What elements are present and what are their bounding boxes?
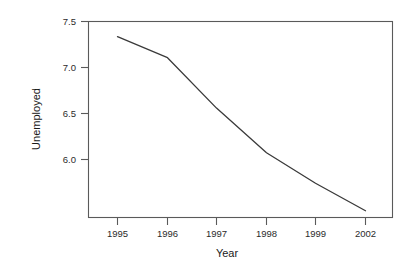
line-chart-svg: 7.5 7.0 6.5 6.0 1995 1996 1997 1998 1999…: [0, 0, 415, 269]
x-tick-label: 1995: [107, 228, 128, 239]
x-tick-label: 1997: [206, 228, 227, 239]
x-tick-label: 2002: [355, 228, 376, 239]
y-tick-label: 7.0: [63, 62, 76, 73]
x-tick-label: 1996: [157, 228, 178, 239]
x-axis-title: Year: [216, 247, 239, 259]
y-tick-label: 6.5: [63, 108, 76, 119]
y-tick-label: 6.0: [63, 154, 76, 165]
y-tick-label: 7.5: [63, 16, 76, 27]
chart-figure: 7.5 7.0 6.5 6.0 1995 1996 1997 1998 1999…: [0, 0, 415, 269]
x-tick-label: 1998: [256, 228, 277, 239]
y-axis-title: Unemployed: [30, 88, 42, 150]
x-tick-label: 1999: [305, 228, 326, 239]
